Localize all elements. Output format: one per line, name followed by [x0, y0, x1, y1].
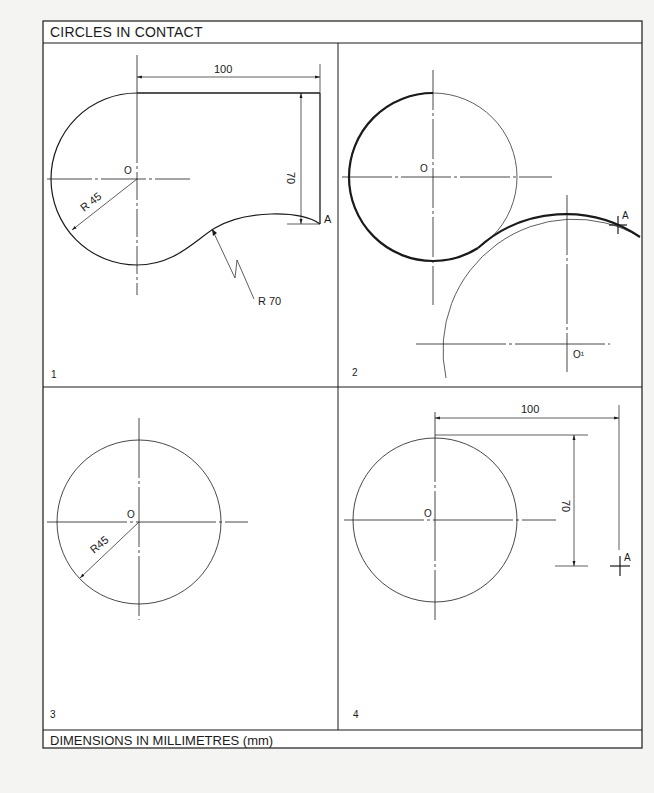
panel-2-center-label: O: [420, 163, 428, 174]
panel-3-center-label: O: [127, 509, 135, 520]
panel-1-center-label: O: [124, 165, 132, 176]
panel-2-center2-label: O¹: [573, 349, 585, 360]
sheet-frame: [43, 21, 642, 748]
panel-4-point-a: A: [624, 552, 631, 563]
panel-1-number: 1: [51, 369, 57, 380]
technical-drawing: O 100 70 R 45 R 70 A 1 O O¹ A 2 O R45 3: [0, 0, 654, 793]
panel-4-center-label: O: [424, 508, 432, 519]
panel-1-point-a: A: [324, 213, 332, 225]
panel-1-dim-100: 100: [214, 63, 232, 75]
panel-4-number: 4: [353, 709, 359, 720]
panel-2-number: 2: [352, 367, 358, 378]
panel-4-dim-70: 70: [560, 500, 572, 512]
panel-1-dim-70: 70: [285, 172, 297, 184]
sheet-title: CIRCLES IN CONTACT: [50, 24, 203, 40]
panel-3-number: 3: [50, 709, 56, 720]
panel-1-radius-70: R 70: [258, 295, 281, 307]
panel-4-dim-100: 100: [521, 403, 539, 415]
sheet-footer-units: DIMENSIONS IN MILLIMETRES (mm): [50, 733, 273, 748]
panel-2-point-a: A: [622, 210, 629, 221]
drawing-sheet: O 100 70 R 45 R 70 A 1 O O¹ A 2 O R45 3: [0, 0, 654, 793]
